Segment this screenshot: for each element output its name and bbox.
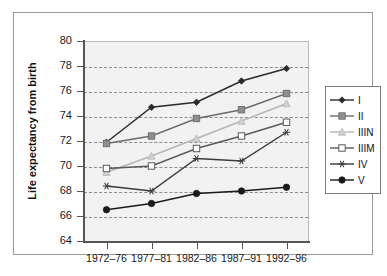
y-axis-tick: [77, 216, 83, 217]
legend-label: IV: [355, 159, 367, 170]
legend-marker-triangle-icon: [329, 125, 355, 139]
data-point-circle: [339, 177, 345, 183]
y-axis-tick: [77, 166, 83, 167]
legend-label: II: [355, 111, 364, 122]
x-axis-tick: [197, 243, 198, 249]
y-axis-tick: [77, 241, 83, 242]
y-axis-tick-label: 72: [26, 135, 72, 146]
data-point-diamond: [193, 99, 199, 105]
data-point-square: [148, 133, 154, 139]
y-axis-tick: [77, 41, 83, 42]
legend-item-iiim[interactable]: IIIM: [329, 140, 377, 156]
data-point-open-square: [103, 165, 109, 171]
data-point-square: [283, 90, 289, 96]
legend: IIIIIINIIIMIVV: [325, 86, 381, 194]
data-point-triangle: [148, 152, 155, 159]
legend-item-iv[interactable]: IV: [329, 156, 377, 172]
chart-figure: Life expectancy from birth 6466687072747…: [0, 0, 387, 276]
y-axis-tick: [77, 66, 83, 67]
y-axis-tick-label: 64: [26, 235, 72, 246]
data-point-triangle: [193, 135, 200, 142]
legend-item-ii[interactable]: II: [329, 108, 377, 124]
legend-label: I: [355, 95, 361, 106]
data-point-asterisk: [103, 183, 111, 190]
data-point-diamond: [238, 78, 244, 84]
legend-item-i[interactable]: I: [329, 92, 377, 108]
data-point-circle: [148, 200, 154, 206]
series-layer: [84, 41, 309, 241]
data-point-circle: [193, 190, 199, 196]
data-point-diamond: [283, 65, 289, 71]
y-axis-tick-label: 74: [26, 110, 72, 121]
legend-marker-open-square-icon: [329, 141, 355, 155]
x-axis-tick: [152, 243, 153, 249]
y-axis-tick: [77, 116, 83, 117]
x-axis-tick: [287, 243, 288, 249]
y-axis-tick-label: 68: [26, 185, 72, 196]
y-axis-tick: [77, 91, 83, 92]
data-point-open-square: [193, 145, 199, 151]
data-point-open-square: [339, 145, 345, 151]
data-point-square: [339, 113, 345, 119]
y-axis-tick: [77, 141, 83, 142]
legend-label: V: [355, 175, 365, 186]
data-point-triangle: [238, 117, 245, 124]
data-point-circle: [238, 188, 244, 194]
data-point-open-square: [283, 119, 289, 125]
x-axis-tick-label: 1992–96: [257, 252, 317, 264]
y-axis-tick-label: 66: [26, 210, 72, 221]
legend-marker-diamond-icon: [329, 93, 355, 107]
y-axis-tick-label: 70: [26, 160, 72, 171]
data-point-triangle: [283, 100, 290, 107]
data-point-open-square: [148, 163, 154, 169]
data-point-square: [103, 140, 109, 146]
data-point-square: [193, 115, 199, 121]
legend-marker-circle-icon: [329, 173, 355, 187]
x-axis-tick: [107, 243, 108, 249]
legend-marker-square-icon: [329, 109, 355, 123]
legend-label: IIIN: [355, 127, 374, 138]
data-point-square: [238, 107, 244, 113]
figure-frame: Life expectancy from birth 6466687072747…: [13, 12, 373, 255]
y-axis-tick: [77, 191, 83, 192]
legend-marker-asterisk-icon: [329, 157, 355, 171]
data-point-open-square: [238, 133, 244, 139]
data-point-circle: [103, 207, 109, 213]
legend-item-v[interactable]: V: [329, 172, 377, 188]
data-point-circle: [283, 184, 289, 190]
data-point-asterisk: [338, 161, 346, 168]
y-axis-tick-labels: 646668707274767880: [26, 13, 72, 276]
y-axis-tick-label: 78: [26, 60, 72, 71]
legend-label: IIIM: [355, 143, 375, 154]
legend-item-iiin[interactable]: IIIN: [329, 124, 377, 140]
x-axis-tick: [242, 243, 243, 249]
y-axis-tick-label: 76: [26, 85, 72, 96]
y-axis-tick-label: 80: [26, 35, 72, 46]
data-point-diamond: [339, 97, 345, 103]
